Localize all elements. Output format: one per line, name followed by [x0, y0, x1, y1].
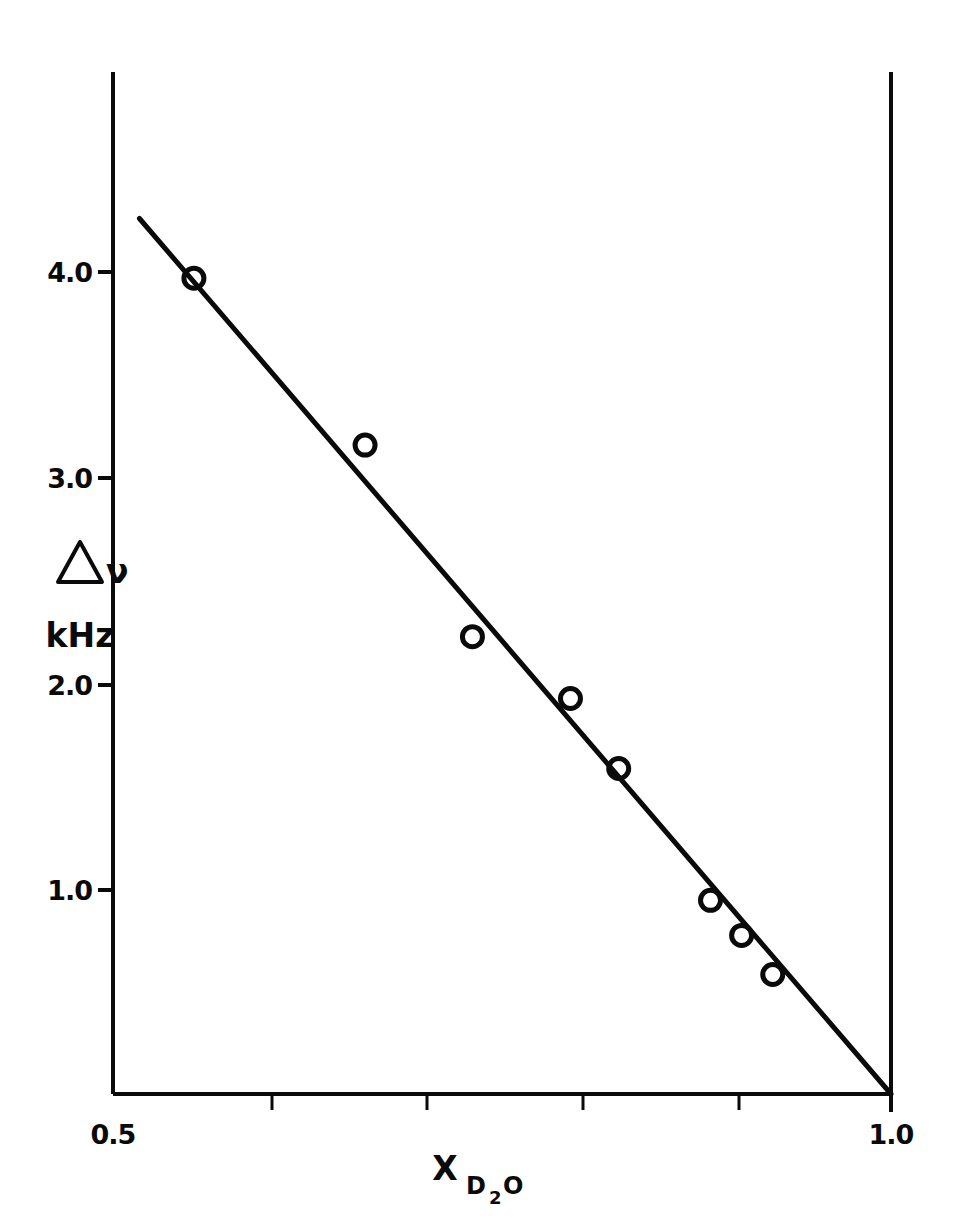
- y-tick-label-2: 2.0: [47, 670, 92, 701]
- nu-symbol: ν: [106, 552, 128, 591]
- x-axis-title-sub-two: 2: [489, 1187, 502, 1208]
- x-axis-title-sub-d: D: [466, 1172, 486, 1200]
- x-axis-title-main: X: [432, 1149, 457, 1188]
- scatter-plot: 1.0 2.0 3.0 4.0 0.5 1.0 ν: [0, 0, 959, 1225]
- x-axis-title-sub-o: O: [503, 1172, 523, 1200]
- x-tick-label-1: 1.0: [869, 1119, 914, 1150]
- y-tick-label-4: 4.0: [47, 257, 92, 288]
- y-tick-label-1: 1.0: [47, 875, 92, 906]
- x-tick-label-0: 0.5: [91, 1119, 136, 1150]
- y-tick-label-3: 3.0: [47, 463, 92, 494]
- y-axis-unit-label: kHz: [46, 616, 115, 655]
- figure-container: 1.0 2.0 3.0 4.0 0.5 1.0 ν: [0, 0, 959, 1225]
